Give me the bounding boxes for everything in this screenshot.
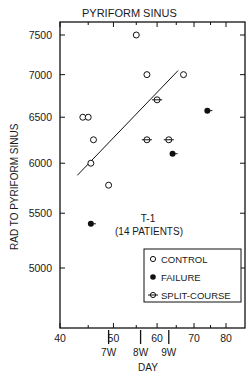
- week-marker-label: 8W: [133, 347, 149, 358]
- y-tick-label: 7500: [29, 29, 53, 41]
- legend-split-course: SPLIT-COURSE: [161, 290, 231, 301]
- legend-failure: FAILURE: [161, 272, 201, 283]
- y-tick-label: 6000: [29, 157, 53, 169]
- regression-line: [77, 71, 178, 176]
- x-tick-label: 80: [220, 332, 232, 344]
- axes: 50005500600065007000750040506070807W8W9W: [29, 22, 245, 358]
- annotation-sublabel: (14 PATIENTS): [115, 226, 183, 237]
- x-axis-label: DAY: [138, 362, 158, 373]
- week-marker-label: 9W: [161, 347, 177, 358]
- control-point: [133, 32, 139, 38]
- y-tick-label: 7000: [29, 69, 53, 81]
- y-tick-label: 5500: [29, 207, 53, 219]
- x-tick-label: 40: [54, 332, 66, 344]
- chart: PYRIFORM SINUS 5000550060006500700075004…: [0, 0, 251, 377]
- control-point: [106, 182, 112, 188]
- annotation-label: T-1: [141, 213, 156, 224]
- legend-control: CONTROL: [161, 254, 207, 265]
- control-point: [85, 114, 91, 120]
- filled-circle-icon: [150, 274, 156, 280]
- chart-title: PYRIFORM SINUS: [82, 7, 177, 19]
- x-tick-label: 70: [188, 332, 200, 344]
- x-tick-label: 50: [108, 332, 120, 344]
- control-point: [144, 72, 150, 78]
- y-tick-label: 6500: [29, 111, 53, 123]
- x-tick-label: 60: [151, 332, 163, 344]
- control-point: [88, 160, 94, 166]
- control-point: [181, 72, 187, 78]
- legend: CONTROL FAILURE SPLIT-COURSE: [144, 249, 241, 302]
- control-point: [90, 137, 96, 143]
- week-marker-label: 7W: [101, 347, 117, 358]
- y-axis-label: RAD TO PYRIFORM SINUS: [9, 123, 20, 250]
- data-points: [80, 32, 213, 227]
- y-tick-label: 5000: [29, 262, 53, 274]
